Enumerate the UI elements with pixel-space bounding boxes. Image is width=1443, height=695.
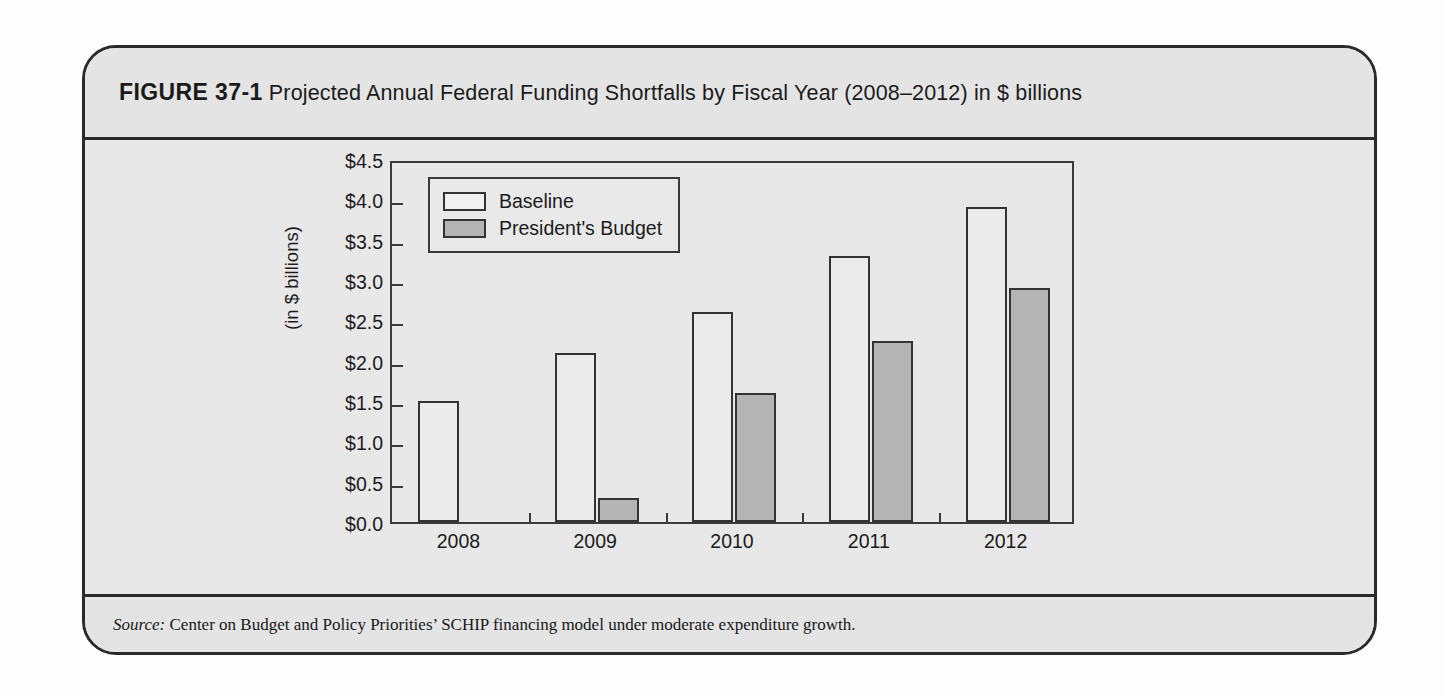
x-axis-tick-label: 2011 — [848, 530, 890, 553]
x-axis-tick-mark — [802, 513, 804, 522]
page-title: FIGURE 37-1 Projected Annual Federal Fun… — [119, 79, 1082, 106]
y-axis-tick-mark — [392, 244, 403, 246]
y-axis-tick-label: $2.5 — [317, 311, 383, 334]
legend-swatch-presidents-budget — [443, 219, 486, 238]
y-axis-tick-labels: $0.0$0.5$1.0$1.5$2.0$2.5$3.0$3.5$4.0$4.5 — [307, 140, 383, 594]
bar-2012-baseline — [966, 207, 1007, 522]
legend-label-baseline: Baseline — [499, 190, 574, 213]
source-body: Center on Budget and Policy Priorities’ … — [165, 615, 855, 634]
x-axis-tick-label: 2008 — [437, 530, 480, 553]
x-axis-tick-mark — [666, 513, 668, 522]
y-axis-tick-label: $0.5 — [317, 472, 383, 495]
y-axis-tick-label: $1.5 — [317, 392, 383, 415]
bar-2011-presidents-budget — [872, 341, 913, 523]
legend-item-presidents-budget: President's Budget — [443, 215, 662, 242]
y-axis-tick-mark — [392, 365, 403, 367]
bar-2010-baseline — [692, 312, 733, 522]
bar-2010-presidents-budget — [735, 393, 776, 522]
y-axis-tick-mark — [392, 445, 403, 447]
bar-2011-baseline — [829, 256, 870, 522]
legend-swatch-baseline — [443, 192, 486, 211]
x-axis-tick-mark — [939, 513, 941, 522]
y-axis-tick-label: $4.5 — [317, 150, 383, 173]
x-axis-tick-label: 2009 — [573, 530, 616, 553]
y-axis-tick-mark — [392, 324, 403, 326]
x-axis-tick-label: 2012 — [984, 530, 1027, 553]
figure-source-band: Source: Center on Budget and Policy Prio… — [85, 594, 1374, 652]
y-axis-tick-label: $2.0 — [317, 351, 383, 374]
bar-2008-baseline — [418, 401, 459, 522]
y-axis-tick-label: $3.0 — [317, 271, 383, 294]
figure-title-band: FIGURE 37-1 Projected Annual Federal Fun… — [85, 48, 1374, 140]
bar-2009-presidents-budget — [598, 498, 639, 522]
source-label: Source: — [113, 615, 165, 634]
bar-2009-baseline — [555, 353, 596, 522]
y-axis-tick-label: $3.5 — [317, 230, 383, 253]
chart-legend: Baseline President's Budget — [428, 177, 680, 253]
figure-frame: FIGURE 37-1 Projected Annual Federal Fun… — [82, 45, 1377, 655]
bar-2012-presidents-budget — [1009, 288, 1050, 522]
chart-region: (in $ billions) $0.0$0.5$1.0$1.5$2.0$2.5… — [85, 140, 1374, 594]
y-axis-tick-label: $1.0 — [317, 432, 383, 455]
y-axis-tick-mark — [392, 486, 403, 488]
source-note: Source: Center on Budget and Policy Prio… — [113, 615, 856, 635]
y-axis-tick-mark — [392, 203, 403, 205]
x-axis-tick-mark — [529, 513, 531, 522]
x-axis-tick-label: 2010 — [710, 530, 753, 553]
figure-title-text: Projected Annual Federal Funding Shortfa… — [269, 81, 1082, 105]
plot-area: Baseline President's Budget — [390, 161, 1074, 524]
y-axis-tick-mark — [392, 284, 403, 286]
legend-label-presidents-budget: President's Budget — [499, 217, 662, 240]
y-axis-tick-label: $4.0 — [317, 190, 383, 213]
legend-item-baseline: Baseline — [443, 188, 662, 215]
y-axis-title: (in $ billions) — [281, 226, 303, 330]
y-axis-tick-mark — [392, 405, 403, 407]
y-axis-tick-label: $0.0 — [317, 513, 383, 536]
figure-number-label: FIGURE 37-1 — [119, 79, 263, 105]
